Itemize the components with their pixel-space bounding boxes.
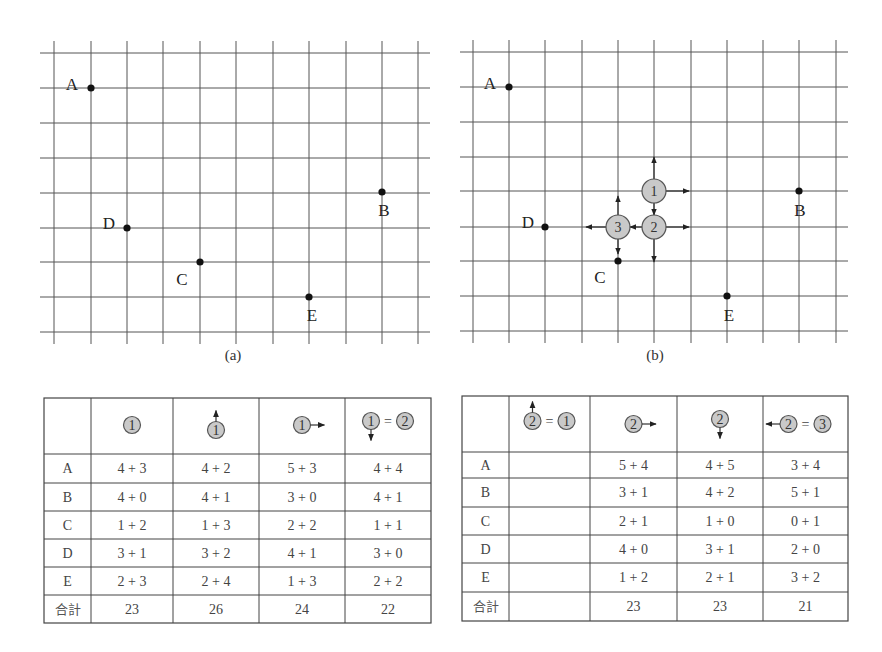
table-cell: 26 bbox=[209, 602, 223, 617]
table-cell: 3 + 2 bbox=[791, 570, 820, 585]
row-label: A bbox=[62, 461, 73, 476]
equals-sign: = bbox=[546, 414, 554, 429]
table-cell: 4 + 0 bbox=[619, 542, 648, 557]
point-label: A bbox=[66, 75, 79, 94]
table-cell: 2 + 2 bbox=[374, 574, 403, 589]
svg-text:1: 1 bbox=[563, 414, 570, 429]
svg-text:2: 2 bbox=[651, 220, 658, 235]
numbered-circle-icon: 3 bbox=[606, 215, 630, 239]
point-label: C bbox=[176, 270, 187, 289]
equals-sign: = bbox=[384, 414, 392, 429]
total-row: 合計232321 bbox=[473, 599, 813, 614]
table-cell: 3 + 1 bbox=[118, 546, 147, 561]
row-label: B bbox=[481, 485, 490, 500]
row-label: B bbox=[63, 490, 72, 505]
row-label: D bbox=[480, 542, 490, 557]
svg-text:1: 1 bbox=[129, 418, 136, 433]
table-cell: 1 + 2 bbox=[619, 570, 648, 585]
point-dot-icon bbox=[505, 83, 512, 90]
table-cell: 1 + 3 bbox=[202, 518, 231, 533]
table-cell: 21 bbox=[799, 599, 813, 614]
figure-canvas: ABCDE (a) ABCDE 123 (b) 1111=2A4 + 34 + … bbox=[0, 0, 882, 652]
table-cell: 2 + 1 bbox=[706, 570, 735, 585]
point-b: B bbox=[794, 187, 805, 219]
header-cell: 1=2 bbox=[363, 413, 414, 441]
table-header-row: 1111=2 bbox=[124, 411, 414, 441]
table-row: B3 + 14 + 25 + 1 bbox=[481, 485, 820, 500]
point-label: B bbox=[794, 201, 805, 220]
table-cell: 3 + 2 bbox=[202, 546, 231, 561]
candidate-circles: 123 bbox=[606, 179, 666, 239]
svg-text:2: 2 bbox=[529, 414, 536, 429]
table-cell: 23 bbox=[125, 602, 139, 617]
caption-b: (b) bbox=[646, 347, 664, 364]
numbered-circle-icon: 2 bbox=[780, 416, 797, 433]
table-cell: 4 + 1 bbox=[288, 546, 317, 561]
numbered-circle-icon: 1 bbox=[208, 422, 225, 439]
table-cell: 3 + 1 bbox=[619, 485, 648, 500]
table-cell: 3 + 4 bbox=[791, 458, 820, 473]
row-label: C bbox=[481, 514, 490, 529]
equals-sign: = bbox=[802, 417, 810, 432]
numbered-circle-icon: 2 bbox=[397, 413, 414, 430]
move-arrows bbox=[586, 157, 689, 262]
svg-text:3: 3 bbox=[819, 417, 826, 432]
row-label: D bbox=[62, 546, 72, 561]
table-cell: 1 + 1 bbox=[374, 518, 403, 533]
point-dot-icon bbox=[123, 224, 130, 231]
table-cell: 5 + 1 bbox=[791, 485, 820, 500]
svg-text:2: 2 bbox=[717, 412, 724, 427]
point-e: E bbox=[305, 293, 317, 324]
table-cell: 3 + 0 bbox=[288, 490, 317, 505]
header-cell: 1 bbox=[124, 417, 141, 434]
table-cell: 2 + 2 bbox=[288, 518, 317, 533]
table-cell: 5 + 4 bbox=[619, 458, 648, 473]
table-row: B4 + 04 + 13 + 04 + 1 bbox=[63, 490, 403, 505]
table-row: A5 + 44 + 53 + 4 bbox=[480, 458, 820, 473]
numbered-circle-icon: 1 bbox=[363, 413, 380, 430]
table-row: E1 + 22 + 13 + 2 bbox=[481, 570, 820, 585]
table-cell: 1 + 3 bbox=[288, 574, 317, 589]
table-row: E2 + 32 + 41 + 32 + 2 bbox=[63, 574, 402, 589]
svg-text:2: 2 bbox=[785, 417, 792, 432]
numbered-circle-icon: 1 bbox=[124, 417, 141, 434]
point-label: B bbox=[378, 201, 389, 220]
point-label: A bbox=[484, 74, 497, 93]
total-row: 合計23262422 bbox=[55, 602, 396, 617]
numbered-circle-icon: 1 bbox=[558, 413, 575, 430]
caption-a: (a) bbox=[225, 347, 242, 364]
figure-a-grid: ABCDE (a) bbox=[40, 41, 430, 364]
table-cell: 23 bbox=[627, 599, 641, 614]
table-row: A4 + 34 + 25 + 34 + 4 bbox=[62, 461, 402, 476]
svg-text:2: 2 bbox=[402, 414, 409, 429]
points-layer: ABCDE bbox=[66, 75, 390, 325]
header-cell: 2=1 bbox=[524, 402, 575, 430]
row-label: C bbox=[63, 518, 72, 533]
numbered-circle-icon: 1 bbox=[294, 417, 311, 434]
grid-lines bbox=[40, 41, 430, 344]
table-left: 1111=2A4 + 34 + 25 + 34 + 4B4 + 04 + 13 … bbox=[44, 398, 431, 623]
figure-b-grid: ABCDE 123 (b) bbox=[460, 40, 848, 364]
table-cell: 1 + 2 bbox=[118, 518, 147, 533]
svg-text:3: 3 bbox=[615, 220, 622, 235]
table-cell: 2 + 4 bbox=[202, 574, 231, 589]
header-cell: 2 bbox=[712, 411, 729, 439]
table-cell: 3 + 1 bbox=[706, 542, 735, 557]
row-label: 合計 bbox=[473, 599, 499, 614]
svg-text:2: 2 bbox=[630, 417, 637, 432]
table-row: C2 + 11 + 00 + 1 bbox=[481, 514, 820, 529]
point-label: C bbox=[594, 268, 605, 287]
table-row: C1 + 21 + 32 + 21 + 1 bbox=[63, 518, 403, 533]
table-row: D3 + 13 + 24 + 13 + 0 bbox=[62, 546, 402, 561]
point-dot-icon bbox=[795, 187, 802, 194]
row-label: E bbox=[481, 570, 490, 585]
row-label: E bbox=[63, 574, 72, 589]
header-cell: 1 bbox=[294, 417, 325, 434]
point-a: A bbox=[484, 74, 513, 93]
table-cell: 2 + 1 bbox=[619, 514, 648, 529]
point-d: D bbox=[103, 214, 131, 233]
table-cell: 22 bbox=[381, 602, 395, 617]
numbered-circle-icon: 2 bbox=[524, 413, 541, 430]
table-cell: 4 + 5 bbox=[706, 458, 735, 473]
svg-text:1: 1 bbox=[368, 414, 375, 429]
